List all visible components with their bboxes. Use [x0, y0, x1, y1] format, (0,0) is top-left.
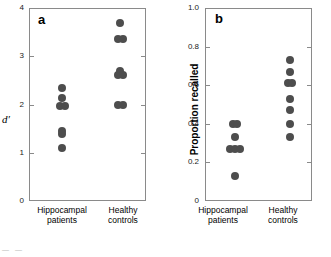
panel-a-ytick-label: 4: [2, 4, 24, 12]
panel-b-ytick-label: 0.6: [173, 81, 199, 89]
panel-b-ytick-mark-right: [307, 47, 312, 48]
panel-a-ytick-mark-left: [29, 153, 34, 154]
data-point: [286, 95, 294, 103]
panel-a-ytick-label: 2: [2, 101, 24, 109]
data-point: [119, 101, 127, 109]
panel-a-ytick-mark-right: [141, 153, 146, 154]
panel-b-ytick-mark-left: [205, 162, 210, 163]
panel-b-ytick-mark-left: [205, 124, 210, 125]
panel-b-ytick-mark-left: [205, 47, 210, 48]
panel-b-ytick-mark-left: [205, 85, 210, 86]
panel-b-ytick-label: 0.8: [173, 43, 199, 51]
data-point: [119, 71, 127, 79]
panel-a-xlabel-healthy-controls: Healthy controls: [83, 205, 163, 225]
panel-a-ytick-mark-right: [141, 105, 146, 106]
panel-a-xlabel-healthy-line2: controls: [83, 215, 163, 225]
panel-a-ytick-mark-left: [29, 56, 34, 57]
data-point: [231, 172, 239, 180]
panel-b-plot-area: [205, 8, 312, 201]
data-point: [119, 35, 127, 43]
panel-a-plot-area: [29, 8, 146, 201]
panel-b-xlabel-healthy-controls: Healthy controls: [243, 205, 323, 225]
panel-b-ytick-label: 0.4: [173, 120, 199, 128]
panel-a-ytick-label: 0: [2, 197, 24, 205]
panel-b-ytick-label: 0.2: [173, 158, 199, 166]
data-point: [61, 102, 69, 110]
panel-b-xlabel-healthy-line2: controls: [243, 215, 323, 225]
data-point: [286, 120, 294, 128]
panel-a-ytick-mark-right: [141, 56, 146, 57]
panel-a-ytick-label: 3: [2, 52, 24, 60]
panel-a-ytick-mark-left: [29, 105, 34, 106]
panel-a-xlabel-healthy-line1: Healthy: [83, 205, 163, 215]
panel-b: b Proportion recalled 00.20.40.60.81.0 H…: [165, 0, 331, 257]
figure-container: a d′ 01234 Hippocampal patients Healthy …: [0, 0, 331, 257]
panel-b-ytick-label: 1.0: [173, 4, 199, 12]
data-point: [236, 145, 244, 153]
data-point: [58, 84, 66, 92]
panel-a-ytick-label: 1: [2, 149, 24, 157]
caption-fragment: — —: [2, 246, 24, 253]
panel-a: a d′ 01234 Hippocampal patients Healthy …: [0, 0, 170, 257]
panel-b-ytick-mark-right: [307, 124, 312, 125]
panel-a-y-axis-label: d′: [2, 113, 10, 125]
panel-b-ytick-mark-right: [307, 162, 312, 163]
panel-b-ytick-mark-right: [307, 85, 312, 86]
data-point: [286, 68, 294, 76]
panel-b-ytick-mark-right: [307, 8, 312, 9]
data-point: [58, 144, 66, 152]
panel-b-xlabel-healthy-line1: Healthy: [243, 205, 323, 215]
panel-b-ytick-label: 0: [173, 197, 199, 205]
